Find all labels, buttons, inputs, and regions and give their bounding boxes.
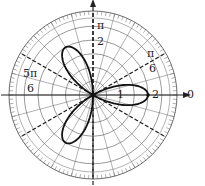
label-pi6-den: 6 bbox=[149, 63, 156, 74]
label-5pi6-num: 5π bbox=[23, 68, 37, 79]
label-5pi6-den: 6 bbox=[27, 83, 34, 94]
label-pi2-num: π bbox=[97, 20, 104, 31]
label-r1: 1 bbox=[117, 89, 124, 100]
label-angle-zero: 0 bbox=[187, 89, 194, 100]
label-r2: 2 bbox=[152, 89, 159, 100]
label-pi6-num: π bbox=[147, 48, 154, 59]
label-pi2-den: 2 bbox=[97, 36, 104, 47]
